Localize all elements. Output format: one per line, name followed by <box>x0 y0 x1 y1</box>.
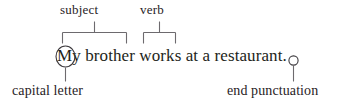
end-punctuation-circle-marker <box>289 56 298 82</box>
callout-label-subject: subject <box>60 3 98 16</box>
callout-label-end-punctuation: end punctuation <box>227 84 318 98</box>
sentence-text: My brother works at a restaurant. <box>57 47 287 64</box>
callout-label-capital-letter: capital letter <box>12 84 83 98</box>
sentence-structure-diagram: subject verb My brother works at a resta… <box>0 0 356 104</box>
callout-label-verb: verb <box>140 3 164 16</box>
verb-bracket-marker <box>144 22 176 44</box>
subject-bracket-marker <box>63 22 127 44</box>
